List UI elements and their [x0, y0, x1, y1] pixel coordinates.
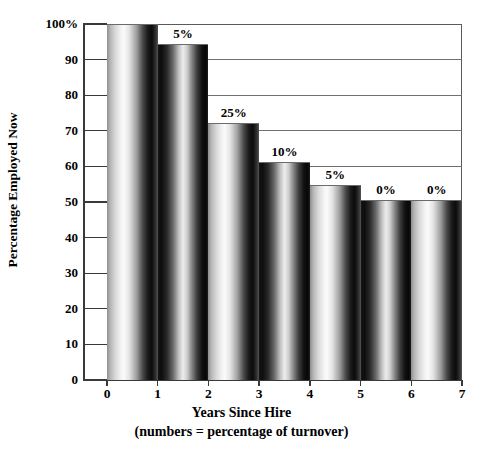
- y-tick-mark: [83, 130, 107, 131]
- bar: [361, 200, 412, 380]
- y-tick-label: 70: [32, 123, 78, 139]
- y-tick-label: 60: [32, 158, 78, 174]
- y-tick-label: 0: [32, 372, 78, 388]
- bar: [158, 44, 209, 380]
- bar: [310, 185, 361, 380]
- x-tick-label: 0: [87, 386, 127, 402]
- bar: [259, 162, 310, 380]
- y-tick-mark: [83, 237, 107, 238]
- y-tick-label: 80: [32, 87, 78, 103]
- bar-value-label: 25%: [208, 105, 259, 121]
- x-tick-label: 3: [239, 386, 279, 402]
- bar-value-label: 5%: [310, 167, 361, 183]
- x-tick-label: 7: [442, 386, 482, 402]
- y-tick-label: 10: [32, 336, 78, 352]
- bar-value-label: 0%: [411, 182, 462, 198]
- y-tick-mark: [83, 95, 107, 96]
- y-tick-mark: [83, 23, 107, 24]
- x-tick-label: 4: [290, 386, 330, 402]
- y-tick-label: 100%: [32, 16, 78, 32]
- y-tick-mark: [83, 308, 107, 309]
- y-tick-label: 90: [32, 52, 78, 68]
- x-axis-subtitle: (numbers = percentage of turnover): [0, 424, 483, 440]
- y-tick-mark: [83, 166, 107, 167]
- bar-value-label: 0%: [361, 182, 412, 198]
- bar: [107, 24, 158, 380]
- x-tick-label: 6: [391, 386, 431, 402]
- y-tick-mark: [83, 379, 107, 380]
- x-tick-label: 5: [341, 386, 381, 402]
- bar: [411, 200, 462, 380]
- x-axis-title: Years Since Hire: [0, 405, 483, 421]
- y-tick-mark: [83, 201, 107, 202]
- y-tick-mark: [83, 273, 107, 274]
- y-axis-title: Percentage Employed Now: [2, 0, 24, 380]
- y-tick-label: 30: [32, 265, 78, 281]
- y-tick-label: 50: [32, 194, 78, 210]
- bar-value-label: 5%: [158, 26, 209, 42]
- x-tick-label: 2: [188, 386, 228, 402]
- y-tick-label: 40: [32, 230, 78, 246]
- y-tick-mark: [83, 59, 107, 60]
- bar: [208, 123, 259, 380]
- bar-value-label: 10%: [259, 144, 310, 160]
- y-tick-label: 20: [32, 301, 78, 317]
- bar-chart: Percentage Employed Now 100%908070605040…: [0, 0, 483, 455]
- x-tick-label: 1: [138, 386, 178, 402]
- y-tick-mark: [83, 344, 107, 345]
